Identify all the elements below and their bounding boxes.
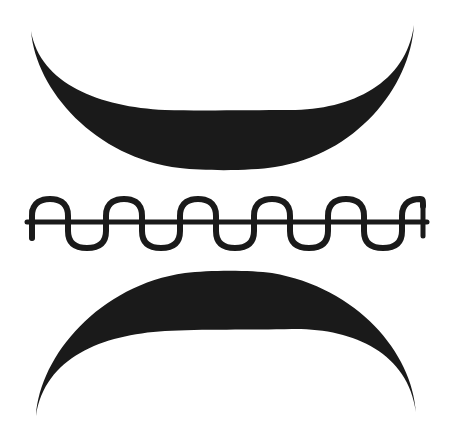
line-art-illustration — [0, 0, 453, 444]
drawing-canvas — [0, 0, 453, 444]
